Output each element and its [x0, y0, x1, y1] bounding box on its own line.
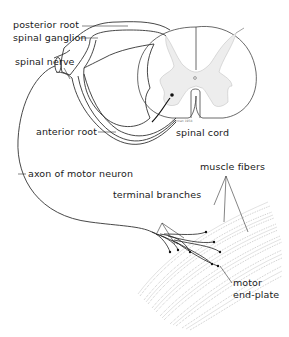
label-posterior-root: posterior root: [13, 20, 79, 30]
neuron-diagram: posterior root spinal ganglion spinal ne…: [0, 0, 289, 337]
label-muscle-fibers: muscle fibers: [200, 162, 265, 172]
label-axon-of-motor-neuron: axon of motor neuron: [28, 169, 133, 179]
label-spinal-cord: spinal cord: [176, 128, 229, 138]
terminal-branches-drawing: [152, 232, 220, 266]
label-spinal-nerve: spinal nerve: [15, 57, 75, 67]
artist-signature: Dunnan 1958: [172, 119, 192, 123]
label-spinal-ganglion: spinal ganglion: [13, 33, 87, 43]
label-anterior-root: anterior root: [36, 127, 97, 137]
label-end-plate: end-plate: [233, 290, 279, 300]
label-motor: motor: [233, 278, 262, 288]
motor-neuron-cell-body: [170, 93, 174, 97]
label-terminal-branches: terminal branches: [113, 190, 201, 200]
